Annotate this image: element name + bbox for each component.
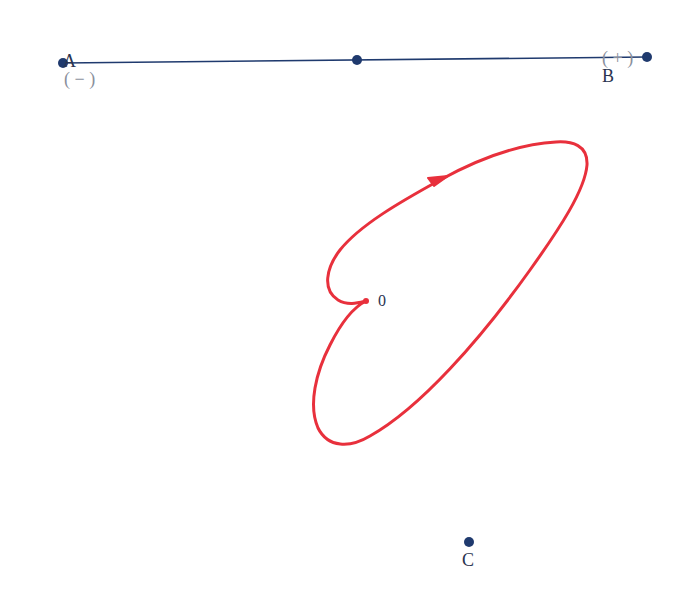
trajectory-curve <box>314 142 588 444</box>
point-c <box>464 537 474 547</box>
label-point-b: ( + ) B <box>593 31 633 85</box>
label-a-letter: A <box>63 51 76 71</box>
label-point-c: C <box>462 551 474 569</box>
origin-point <box>363 298 369 304</box>
diagram-canvas <box>0 0 690 614</box>
label-point-a: A ( − ) <box>55 34 95 88</box>
label-origin: 0 <box>378 293 386 309</box>
label-a-sign: ( − ) <box>64 69 95 89</box>
point-midpoint <box>352 55 362 65</box>
label-b-letter: B <box>602 66 614 86</box>
point-b <box>642 52 652 62</box>
label-b-sign: ( + ) <box>602 48 633 68</box>
